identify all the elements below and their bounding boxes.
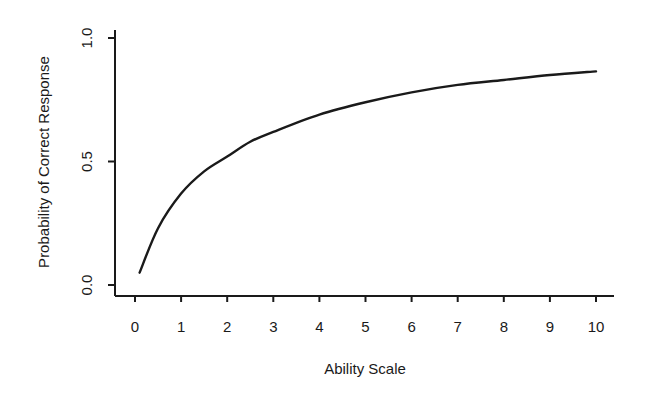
y-ticks: 0.00.51.0 [78, 28, 115, 296]
x-tick-label: 6 [407, 318, 415, 335]
x-tick-label: 4 [315, 318, 323, 335]
x-tick-label: 8 [500, 318, 508, 335]
x-tick-label: 9 [546, 318, 554, 335]
x-tick-label: 3 [269, 318, 277, 335]
x-tick-label: 0 [131, 318, 139, 335]
probability-curve [140, 71, 596, 272]
axes [115, 30, 614, 296]
x-axis-title: Ability Scale [324, 360, 406, 377]
x-tick-label: 5 [361, 318, 369, 335]
x-tick-label: 1 [177, 318, 185, 335]
x-tick-label: 7 [454, 318, 462, 335]
y-tick-label: 1.0 [78, 28, 95, 49]
chart: 0.00.51.0 012345678910 Ability Scale Pro… [0, 0, 645, 398]
y-axis-title: Probability of Correct Response [35, 56, 52, 268]
x-tick-label: 10 [588, 318, 605, 335]
x-tick-label: 2 [223, 318, 231, 335]
x-ticks: 012345678910 [131, 296, 605, 335]
y-tick-label: 0.0 [78, 275, 95, 296]
y-tick-label: 0.5 [78, 151, 95, 172]
